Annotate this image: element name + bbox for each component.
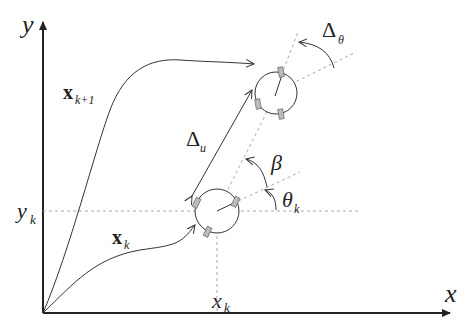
svg-text:u: u bbox=[200, 141, 206, 155]
label-delta-theta: Δ θ bbox=[322, 17, 344, 47]
svg-text:θ: θ bbox=[282, 187, 293, 212]
x-axis-label: x bbox=[444, 279, 457, 308]
label-beta: β bbox=[270, 150, 282, 175]
svg-text:x: x bbox=[112, 226, 122, 248]
svg-text:θ: θ bbox=[338, 33, 344, 47]
y-axis-label: y bbox=[19, 10, 34, 39]
svg-text:k: k bbox=[30, 212, 36, 227]
label-delta-u: Δ u bbox=[186, 126, 206, 155]
delta-theta-arrow bbox=[299, 42, 334, 68]
label-xk1: x k+1 bbox=[63, 81, 94, 107]
svg-text:k: k bbox=[224, 300, 230, 315]
yk-label: y k bbox=[15, 198, 36, 227]
svg-text:k+1: k+1 bbox=[75, 93, 94, 107]
robot-k1 bbox=[255, 67, 297, 120]
svg-text:k: k bbox=[294, 202, 300, 216]
svg-text:x: x bbox=[63, 81, 73, 103]
svg-text:y: y bbox=[15, 198, 27, 223]
pose-diagram: y x y k x x k x k x k+1 Δ u bbox=[0, 0, 473, 327]
beta-arrow bbox=[246, 159, 267, 187]
svg-text:Δ: Δ bbox=[322, 17, 336, 42]
label-theta-k: θ k bbox=[282, 187, 300, 216]
axes bbox=[43, 22, 450, 313]
robot-k bbox=[192, 189, 240, 237]
theta-k-arrow bbox=[265, 190, 276, 210]
label-xk: x k bbox=[112, 226, 130, 252]
svg-text:Δ: Δ bbox=[186, 126, 200, 151]
xk-label: x x k bbox=[211, 288, 230, 315]
svg-text:k: k bbox=[124, 238, 130, 252]
